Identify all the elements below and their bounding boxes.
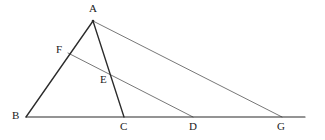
vertex-point-A — [92, 20, 95, 23]
vertex-label-F: F — [56, 44, 62, 55]
vertex-label-A: A — [89, 3, 97, 14]
segment-A-G — [93, 21, 282, 117]
segment-A-C — [93, 21, 124, 117]
vertex-label-B: B — [12, 110, 19, 121]
geometry-canvas — [0, 0, 325, 140]
vertex-label-E: E — [100, 74, 107, 85]
vertex-label-D: D — [189, 121, 197, 132]
segment-A-B — [26, 21, 93, 117]
vertex-label-C: C — [120, 121, 127, 132]
vertex-label-G: G — [277, 121, 285, 132]
geometry-figure: A B C D G F E — [0, 0, 325, 140]
